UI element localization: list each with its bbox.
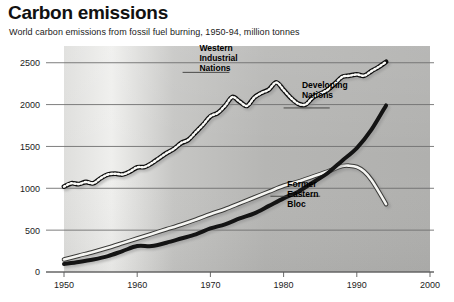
x-axis-tick-label: 1950 [54,280,74,290]
y-axis-tick-label: 1500 [20,142,40,152]
x-axis-tick-marks [46,272,434,277]
x-axis-tick-labels: 195019601970198019902000 [54,280,440,290]
y-axis-tick-label: 500 [25,226,40,236]
x-axis-tick-label: 1960 [127,280,147,290]
x-axis-tick-label: 1990 [347,280,367,290]
y-axis-tick-label: 1000 [20,184,40,194]
y-axis-tick-label: 2000 [20,100,40,110]
plot-background [64,46,430,272]
carbon-emissions-line-chart: 05001000150020002500 1950196019701980199… [0,0,454,302]
y-axis-tick-labels: 05001000150020002500 [20,58,40,277]
y-axis-tick-label: 2500 [20,58,40,68]
y-axis-tick-label: 0 [35,267,40,277]
chart-page: Carbon emissions World carbon emissions … [0,0,454,302]
x-axis-tick-label: 1980 [274,280,294,290]
x-axis-tick-label: 1970 [200,280,220,290]
x-axis-tick-label: 2000 [420,280,440,290]
